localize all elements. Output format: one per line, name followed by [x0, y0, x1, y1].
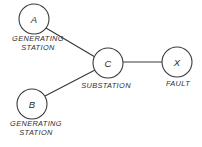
node-caption-b-line2: STATION [19, 128, 53, 137]
node-caption-x-line1: FAULT [166, 79, 190, 88]
node-caption-a-line1: GENERATING [12, 34, 64, 43]
node-caption-a-line2: STATION [21, 43, 55, 52]
node-caption-b-line1: GENERATING [10, 119, 62, 128]
diagram-canvas: A GENERATING STATION B GENERATING STATIO… [0, 0, 202, 147]
node-label-x: X [173, 57, 181, 68]
node-label-c: C [104, 58, 111, 69]
power-system-diagram: A GENERATING STATION B GENERATING STATIO… [0, 0, 202, 147]
node-label-a: A [30, 14, 38, 25]
node-label-b: B [29, 99, 36, 110]
node-caption-c-line1: SUBSTATION [81, 81, 131, 90]
